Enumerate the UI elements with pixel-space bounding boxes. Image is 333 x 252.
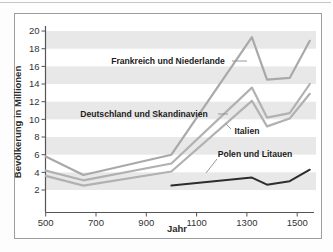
- y-tick-label-4: 4: [34, 167, 39, 178]
- series-label-4: Polen und Litauen: [218, 149, 292, 159]
- x-tick-label-1500: 1500: [287, 217, 308, 228]
- y-tick-label-10: 10: [29, 114, 40, 125]
- x-tick-label-1300: 1300: [236, 217, 257, 228]
- y-tick-label-18: 18: [29, 43, 40, 54]
- x-tick-label-900: 900: [138, 217, 154, 228]
- background-band-18-20: [46, 31, 316, 49]
- y-axis-title: Bevölkerung in Millionen: [12, 66, 23, 179]
- x-axis-title: Jahr: [167, 223, 187, 234]
- y-tick-label-6: 6: [34, 149, 39, 160]
- y-tick-label-16: 16: [29, 61, 40, 72]
- x-tick-label-500: 500: [38, 217, 54, 228]
- chart-generated-content: 2468101214161820500700900110013001500Fra…: [15, 14, 322, 239]
- population-history-figure: 2468101214161820500700900110013001500Fra…: [0, 0, 333, 252]
- y-tick-label-8: 8: [34, 131, 39, 142]
- y-tick-label-2: 2: [34, 184, 39, 195]
- series-label-1: Frankreich und Niederlande: [111, 56, 225, 66]
- x-tick-label-700: 700: [88, 217, 104, 228]
- y-tick-label-14: 14: [29, 78, 40, 89]
- population-line-chart: 2468101214161820500700900110013001500Fra…: [0, 0, 333, 252]
- y-tick-label-12: 12: [29, 96, 40, 107]
- x-tick-label-1100: 1100: [186, 217, 206, 228]
- series-label-2: Deutschland und Skandinavien: [80, 109, 208, 119]
- y-tick-label-20: 20: [29, 25, 40, 36]
- background-band-14-16: [46, 66, 316, 84]
- series-label-3: Italien: [235, 126, 260, 136]
